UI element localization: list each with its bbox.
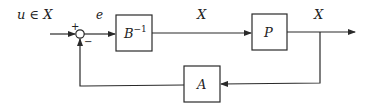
plus-sign: + — [71, 21, 79, 32]
input-label: u ∈ X — [17, 7, 53, 22]
a-block: A — [184, 66, 220, 102]
a-block-label: A — [196, 77, 206, 92]
mid-signal-label: X — [196, 7, 207, 22]
p-block-label: P — [263, 25, 273, 40]
error-label: e — [96, 8, 103, 22]
b-inverse-superscript: −1 — [134, 24, 147, 34]
minus-sign: − — [84, 36, 92, 47]
output-label: X — [313, 7, 324, 22]
b-inverse-base: B — [123, 26, 134, 41]
b-inverse-block: B−1 — [116, 15, 152, 51]
p-block: P — [252, 14, 287, 50]
block-diagram: u ∈ X + − e B−1 X P X A — [0, 0, 370, 109]
